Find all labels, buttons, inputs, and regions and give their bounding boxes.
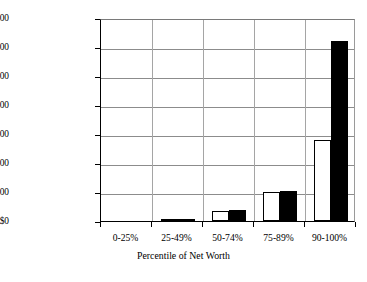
y-axis-tick-label: $0 <box>0 217 9 226</box>
chart-figure: $0$500,000$1,000,000$1,500,000$2,000,000… <box>0 0 367 282</box>
category-separator <box>203 20 204 221</box>
y-axis-tick-label: $3,500,000 <box>0 14 9 23</box>
x-axis-tick-mark <box>151 222 152 227</box>
x-axis-tick-mark <box>355 222 356 227</box>
category-separator <box>254 20 255 221</box>
category-separator <box>152 20 153 221</box>
y-axis-tick-label: $1,500,000 <box>0 130 9 139</box>
x-axis-tick-mark <box>253 222 254 227</box>
x-axis-title: Percentile of Net Worth <box>0 250 367 262</box>
y-axis-tick-label: $3,000,000 <box>0 43 9 52</box>
plot-area: Mean Median <box>100 19 355 222</box>
bar-mean-75-89% <box>280 191 297 221</box>
x-axis-tick-label: 90-100% <box>304 232 355 243</box>
bar-median-25-49% <box>161 219 178 221</box>
y-axis-tick-label: $500,000 <box>0 188 9 197</box>
x-axis-tick-label: 25-49% <box>151 232 202 243</box>
gridline <box>101 78 354 79</box>
x-axis-tick-mark <box>304 222 305 227</box>
bar-median-90-100% <box>314 140 331 221</box>
x-axis-tick-mark <box>202 222 203 227</box>
category-separator <box>305 20 306 221</box>
gridline <box>101 107 354 108</box>
bar-mean-90-100% <box>331 41 348 221</box>
y-axis-tick-label: $2,500,000 <box>0 72 9 81</box>
x-axis-tick-mark <box>100 222 101 227</box>
x-axis-tick-label: 50-74% <box>202 232 253 243</box>
gridline <box>101 49 354 50</box>
x-axis-tick-label: 75-89% <box>253 232 304 243</box>
bar-mean-25-49% <box>178 219 195 221</box>
bar-median-75-89% <box>263 192 280 221</box>
y-axis-tick-label: $1,000,000 <box>0 159 9 168</box>
gridline <box>101 136 354 137</box>
bar-mean-50-74% <box>229 210 246 221</box>
y-axis-tick-label: $2,000,000 <box>0 101 9 110</box>
bar-median-50-74% <box>212 211 229 221</box>
x-axis-tick-label: 0-25% <box>100 232 151 243</box>
